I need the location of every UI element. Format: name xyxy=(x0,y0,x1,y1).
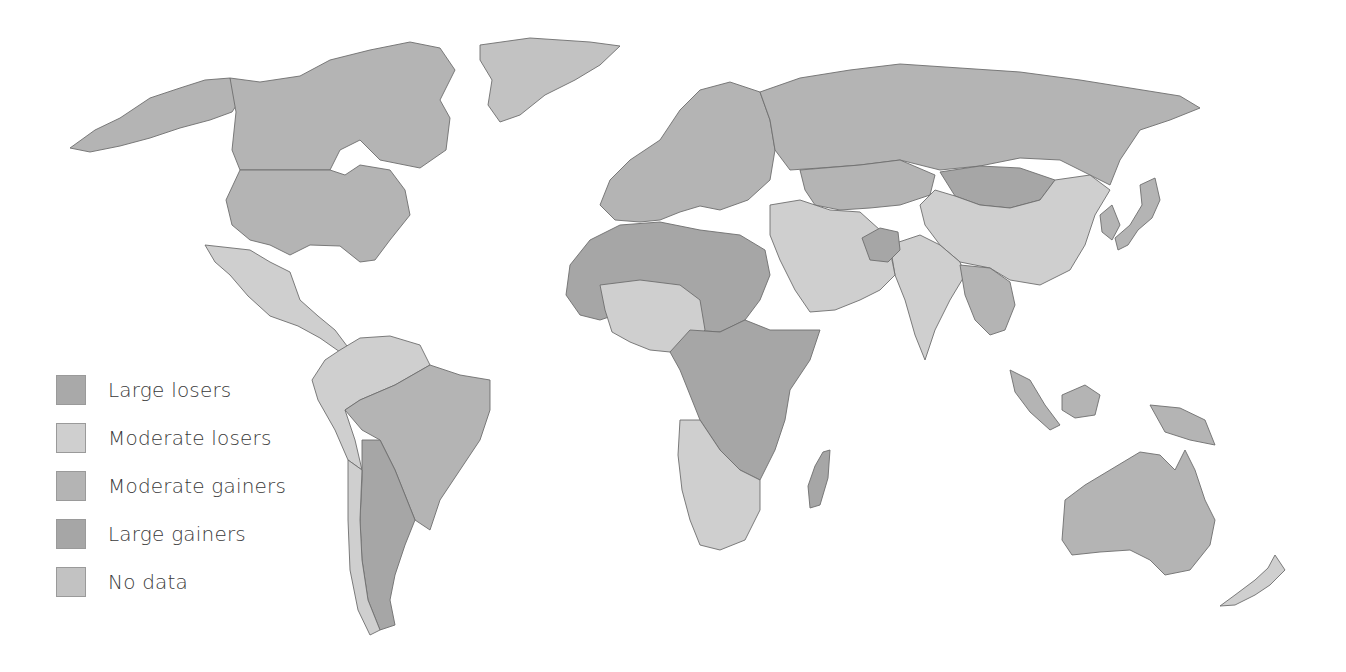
legend-label: Large losers xyxy=(108,378,232,402)
region-new-zealand xyxy=(1220,555,1285,606)
region-europe xyxy=(600,82,775,222)
legend-swatch xyxy=(56,519,86,549)
legend-item-no-data: No data xyxy=(56,558,286,606)
legend-label: Moderate losers xyxy=(108,426,272,450)
region-australia xyxy=(1062,450,1215,575)
legend-label: Large gainers xyxy=(108,522,246,546)
legend-label: Moderate gainers xyxy=(108,474,286,498)
region-alaska xyxy=(70,78,240,152)
region-greenland xyxy=(480,38,620,122)
legend-swatch xyxy=(56,423,86,453)
map-legend: Large losers Moderate losers Moderate ga… xyxy=(56,366,286,606)
region-usa xyxy=(226,165,410,262)
legend-label: No data xyxy=(108,570,188,594)
legend-item-moderate-losers: Moderate losers xyxy=(56,414,286,462)
legend-item-large-gainers: Large gainers xyxy=(56,510,286,558)
legend-swatch xyxy=(56,471,86,501)
legend-swatch xyxy=(56,375,86,405)
region-mexico-central-america xyxy=(205,245,350,352)
legend-item-moderate-gainers: Moderate gainers xyxy=(56,462,286,510)
region-canada xyxy=(230,42,455,170)
region-madagascar xyxy=(808,450,830,508)
region-indonesia-png xyxy=(1010,370,1215,445)
legend-swatch xyxy=(56,567,86,597)
legend-item-large-losers: Large losers xyxy=(56,366,286,414)
